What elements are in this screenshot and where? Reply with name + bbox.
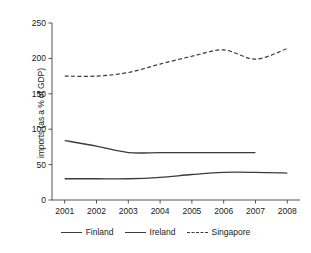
legend-label-ireland: Ireland bbox=[150, 227, 176, 237]
plot-svg: 050100150200250 200120022003200420052006… bbox=[0, 0, 311, 253]
x-tick-label: 2004 bbox=[151, 206, 170, 216]
x-tick-label: 2001 bbox=[55, 206, 74, 216]
x-tick-label: 2005 bbox=[182, 206, 201, 216]
y-tick-label: 250 bbox=[32, 18, 46, 28]
chart-container: imports (as a % of GDP) 050100150200250 … bbox=[0, 0, 311, 253]
legend-label-singapore: Singapore bbox=[212, 227, 251, 237]
legend-swatch-ireland bbox=[125, 232, 146, 233]
series-line-ireland bbox=[65, 141, 256, 154]
legend-swatch-singapore bbox=[187, 232, 208, 233]
y-tick-label: 0 bbox=[41, 195, 46, 205]
y-tick-label: 150 bbox=[32, 89, 46, 99]
x-tick-label: 2003 bbox=[119, 206, 138, 216]
x-tick-label: 2008 bbox=[278, 206, 297, 216]
x-axis-ticks: 20012002200320042005200620072008 bbox=[55, 200, 297, 216]
y-axis-ticks: 050100150200250 bbox=[32, 18, 52, 205]
legend-item-singapore[interactable]: Singapore bbox=[187, 227, 251, 237]
series-line-singapore bbox=[65, 48, 288, 76]
data-series-group bbox=[65, 48, 288, 178]
legend-label-finland: Finland bbox=[86, 227, 114, 237]
chart-legend: FinlandIrelandSingapore bbox=[0, 227, 311, 237]
x-tick-label: 2002 bbox=[87, 206, 106, 216]
legend-swatch-finland bbox=[61, 232, 82, 233]
series-line-finland bbox=[65, 172, 288, 179]
x-tick-label: 2007 bbox=[246, 206, 265, 216]
x-tick-label: 2006 bbox=[214, 206, 233, 216]
plot-area: 050100150200250 200120022003200420052006… bbox=[0, 0, 311, 253]
y-tick-label: 100 bbox=[32, 124, 46, 134]
y-tick-label: 50 bbox=[37, 160, 47, 170]
legend-item-ireland[interactable]: Ireland bbox=[125, 227, 176, 237]
legend-item-finland[interactable]: Finland bbox=[61, 227, 114, 237]
y-tick-label: 200 bbox=[32, 53, 46, 63]
